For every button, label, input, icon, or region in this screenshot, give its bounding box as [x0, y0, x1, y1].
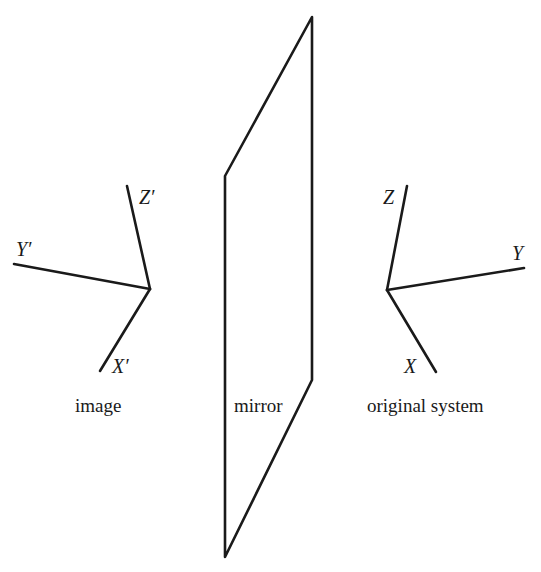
image-x-label: X′ — [111, 355, 129, 377]
original-y-label: Y — [512, 242, 525, 264]
original-caption: original system — [367, 395, 484, 416]
original-x-label: X — [403, 355, 417, 377]
original-z-label: Z — [383, 186, 395, 208]
image-z-label: Z′ — [139, 186, 155, 208]
mirror-caption: mirror — [234, 395, 283, 416]
image-y-label: Y′ — [16, 238, 32, 260]
original-y-axis — [387, 268, 524, 290]
mirror-reflection-diagram: Z′ Y′ X′ image mirror Z Y X original sys… — [0, 0, 541, 572]
image-coordinate-system: Z′ Y′ X′ image — [14, 186, 155, 416]
original-coordinate-system: Z Y X original system — [367, 186, 525, 416]
mirror-plane — [225, 17, 312, 557]
image-y-axis — [14, 264, 150, 289]
mirror: mirror — [225, 17, 312, 557]
image-caption: image — [75, 395, 121, 416]
